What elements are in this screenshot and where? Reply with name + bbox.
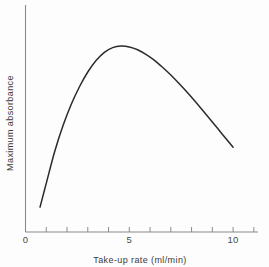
x-axis-tick-labels: 0510 — [23, 234, 239, 245]
x-axis-title-text: Take-up rate (ml/min) — [93, 255, 186, 265]
x-axis-tick-label: 5 — [126, 234, 132, 245]
x-axis-tick-label: 10 — [228, 234, 239, 245]
chart-figure: 0510 Maximum absorbance Take-up rate (ml… — [0, 0, 269, 267]
x-axis-ticks — [46, 227, 254, 232]
plot-area: 0510 — [0, 0, 269, 267]
data-curve — [40, 46, 233, 207]
x-axis-title: Take-up rate (ml/min) — [20, 249, 260, 267]
x-axis-tick-label: 0 — [23, 234, 29, 245]
